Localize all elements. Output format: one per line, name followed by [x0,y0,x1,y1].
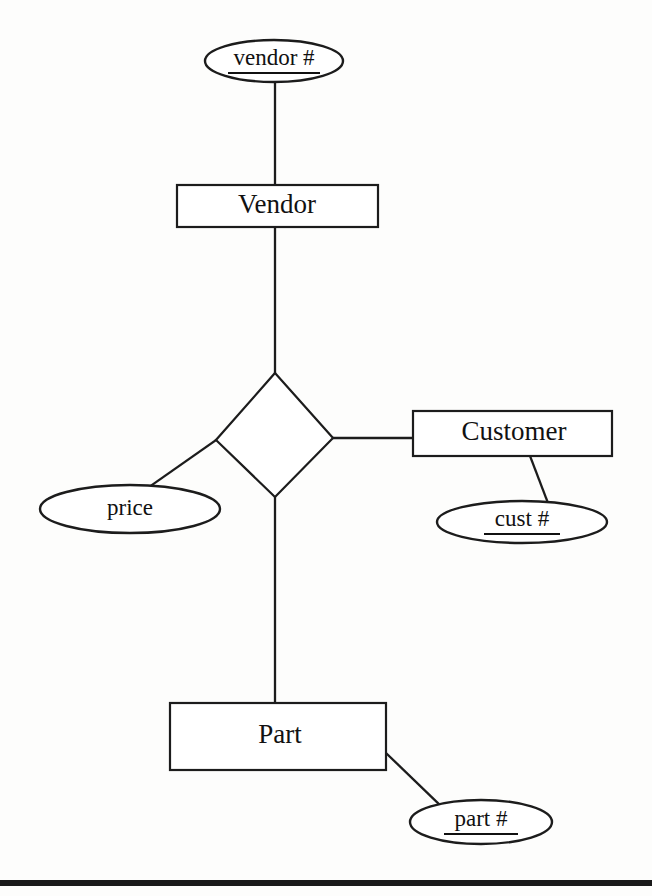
attribute-vendor-num[interactable]: vendor # [205,40,343,82]
footer-divider [0,880,652,886]
relationship-supplies[interactable] [216,373,333,497]
connector-part-to-partnum [386,753,441,806]
er-diagram-canvas: vendor # Vendor price Customer cust # [0,0,652,896]
relationship-diamond [216,373,333,497]
entity-label: Part [258,719,302,749]
attribute-part-num[interactable]: part # [410,800,552,844]
attribute-price[interactable]: price [40,485,220,533]
entity-label: Customer [462,416,567,446]
attribute-label: price [107,495,153,520]
entity-customer[interactable]: Customer [413,411,612,456]
entity-part[interactable]: Part [170,703,386,770]
attribute-label: vendor # [233,45,315,70]
attribute-cust-num[interactable]: cust # [437,501,607,543]
entity-label: Vendor [238,189,316,219]
attribute-label: cust # [495,506,550,531]
attribute-label: part # [454,806,508,831]
er-diagram-svg: vendor # Vendor price Customer cust # [0,0,652,896]
entity-vendor[interactable]: Vendor [177,185,378,227]
connector-relationship-to-price [152,440,216,485]
connector-customer-to-custnum [530,456,548,503]
